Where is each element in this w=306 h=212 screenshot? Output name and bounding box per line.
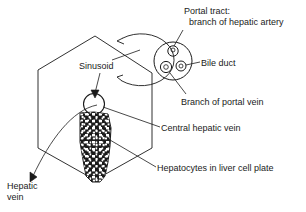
liver-lobule-diagram: Portal tract: branch of hepatic artery B…: [0, 0, 306, 212]
label-portal-tract: Portal tract:: [184, 6, 230, 17]
label-bile-duct: Bile duct: [201, 58, 236, 69]
vessel-portal-vein: [160, 61, 171, 72]
label-hepatocytes: Hepatocytes in liver cell plate: [157, 163, 274, 174]
label-hepatic-vein: Hepatic: [7, 181, 38, 192]
label-branch-of-portal-vein: Branch of portal vein: [181, 97, 264, 108]
label-central-hepatic-vein: Central hepatic vein: [161, 123, 241, 134]
leader-sinusoid: [91, 50, 140, 98]
portal-triad-circle: [154, 42, 192, 80]
vessel-bile-duct: [176, 61, 186, 71]
hepatocyte-plate: [78, 110, 114, 184]
label-sinusoid: Sinusoid: [79, 61, 114, 72]
label-hepatic-vein-second-line: vein: [7, 192, 24, 203]
label-portal-tract-detail: branch of hepatic artery: [189, 17, 284, 28]
leader-portal-vein: [170, 73, 186, 94]
leader-central-vein: [103, 107, 160, 127]
leader-hepatocytes: [110, 140, 156, 167]
leader-bile-duct: [186, 62, 200, 65]
